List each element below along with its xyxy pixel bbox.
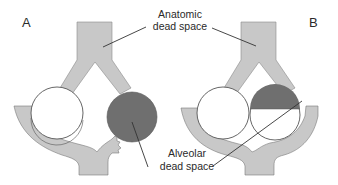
anatomic-label-line1: Anatomic (158, 8, 202, 20)
panel-a: A (14, 15, 157, 175)
alveolus-b-right (250, 84, 300, 140)
panel-label-b: B (309, 15, 318, 30)
alveolus-a-left (31, 87, 83, 139)
panel-label-a: A (22, 15, 31, 30)
airway-a (60, 22, 131, 94)
dead-space-diagram: A B Anatomic dead space Alveo (0, 0, 338, 185)
airway-b (224, 22, 295, 94)
alveolar-label-line1: Alveolar (168, 147, 206, 159)
alveolar-label-line2: dead space (160, 160, 214, 172)
anatomic-label-line2: dead space (153, 20, 207, 32)
callout-anatomic: Anatomic dead space (103, 8, 256, 47)
alveolus-b-left (197, 87, 249, 139)
alveolus-a-right-dead-space (107, 92, 157, 142)
